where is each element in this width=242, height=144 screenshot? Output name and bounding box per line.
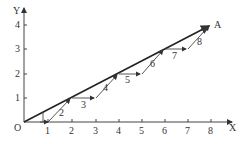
x-tick-labels: 1 2 3 4 5 6 7 8: [45, 125, 213, 136]
svg-text:1: 1: [45, 125, 50, 136]
svg-text:8: 8: [197, 36, 202, 47]
svg-text:5: 5: [125, 74, 130, 85]
svg-text:2: 2: [69, 125, 74, 136]
svg-text:1: 1: [15, 92, 20, 103]
svg-text:4: 4: [103, 82, 108, 93]
svg-text:8: 8: [208, 125, 213, 136]
origin-label: O: [14, 122, 21, 133]
y-tick-labels: 1 2 3 4: [15, 19, 20, 103]
svg-text:2: 2: [15, 68, 20, 79]
svg-text:6: 6: [150, 58, 155, 69]
svg-text:3: 3: [15, 43, 20, 54]
vector-path-diagram: O X Y A 1 2 3 4 5 6 7 8 1 2 3 4 2 3 4 5 …: [0, 0, 242, 144]
svg-text:7: 7: [172, 50, 177, 61]
x-axis-label: X: [229, 122, 237, 133]
svg-text:5: 5: [139, 125, 144, 136]
svg-text:2: 2: [59, 107, 64, 118]
svg-text:4: 4: [15, 19, 20, 30]
line-oa: [24, 26, 209, 122]
y-axis-label: Y: [13, 5, 20, 16]
segment-labels: 2 3 4 5 6 7 8: [59, 36, 202, 118]
svg-text:3: 3: [93, 125, 98, 136]
svg-text:3: 3: [81, 99, 86, 110]
svg-text:7: 7: [185, 125, 190, 136]
diagram: O X Y A 1 2 3 4 5 6 7 8 1 2 3 4 2 3 4 5 …: [0, 0, 242, 144]
point-a-label: A: [214, 19, 222, 30]
svg-text:6: 6: [162, 125, 167, 136]
svg-text:4: 4: [116, 125, 121, 136]
